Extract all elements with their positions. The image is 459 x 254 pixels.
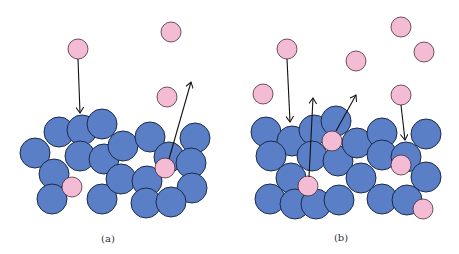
- substrate-atom: [411, 119, 441, 149]
- ion-particle: [413, 199, 433, 219]
- ion-particle: [391, 155, 411, 175]
- substrate-atom: [87, 109, 117, 139]
- substrate-atom: [324, 185, 354, 215]
- ion-particle: [68, 39, 88, 59]
- substrate-atom: [297, 141, 327, 171]
- ion-particle: [298, 176, 318, 196]
- substrate-atom: [156, 187, 186, 217]
- trajectory-arrow: [401, 105, 405, 140]
- ion-particle: [414, 42, 434, 62]
- substrate-atom: [106, 164, 136, 194]
- ion-particle: [161, 22, 181, 42]
- ion-particle: [346, 51, 366, 71]
- sputtering-diagram: (a)(b): [0, 0, 459, 254]
- ion-particle: [322, 131, 342, 151]
- ion-particle: [277, 39, 297, 59]
- ion-particle: [391, 17, 411, 37]
- ion-particle: [155, 158, 175, 178]
- ion-particle: [253, 84, 273, 104]
- trajectory-arrow: [287, 59, 290, 122]
- diagram: (a)(b): [0, 0, 459, 254]
- panel-label: (b): [334, 232, 348, 243]
- ion-particle: [391, 85, 411, 105]
- substrate-atom: [108, 131, 138, 161]
- ion-particle: [62, 177, 82, 197]
- ion-particle: [157, 87, 177, 107]
- panel-label: (a): [101, 233, 115, 244]
- trajectory-arrow: [78, 59, 80, 113]
